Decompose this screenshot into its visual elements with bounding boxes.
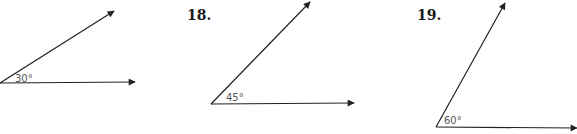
diagram-svg: 30° 18. 45° 19. 60°	[0, 0, 577, 134]
ray-upper	[211, 2, 310, 104]
angle-diagrams: 30° 18. 45° 19. 60°	[0, 0, 577, 134]
ray-lower	[436, 127, 577, 128]
angle-label: 45°	[226, 92, 244, 103]
ray-upper	[436, 3, 505, 127]
angle-label: 60°	[444, 115, 462, 126]
angle-figure-60: 19. 60°	[417, 3, 577, 128]
angle-figure-30: 30°	[0, 11, 135, 84]
angle-figure-45: 18. 45°	[187, 2, 354, 104]
angle-label: 30°	[15, 73, 33, 84]
ray-lower	[211, 103, 354, 104]
problem-number: 19.	[417, 7, 441, 23]
problem-number: 18.	[187, 7, 211, 23]
